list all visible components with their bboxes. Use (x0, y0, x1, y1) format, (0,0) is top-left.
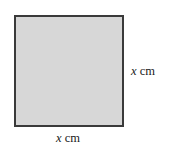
right-side-label: x cm (131, 65, 155, 78)
geometry-figure: x cm x cm (0, 0, 169, 149)
right-side-variable: x (131, 64, 137, 78)
right-side-unit: cm (140, 64, 155, 78)
bottom-side-label: x cm (56, 132, 80, 145)
square-shape (14, 15, 124, 127)
bottom-side-unit: cm (65, 131, 80, 145)
bottom-side-variable: x (56, 131, 62, 145)
